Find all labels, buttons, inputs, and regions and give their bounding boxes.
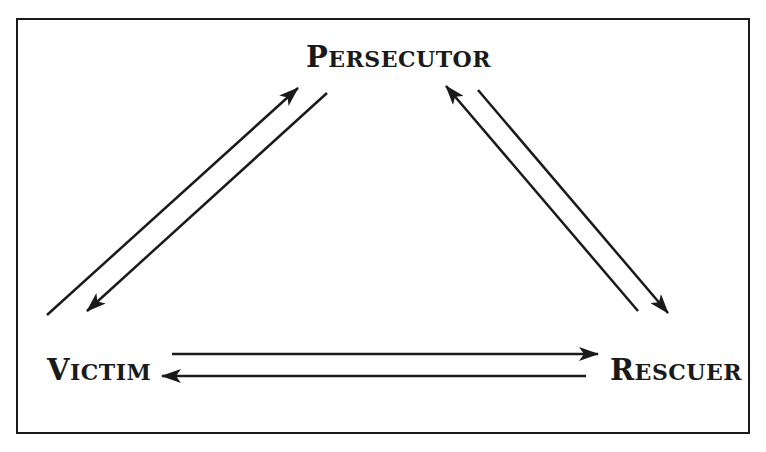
node-rescuer: RESCUER (610, 353, 742, 387)
arrow-rescuer-to-persecutor (446, 86, 638, 311)
node-rescuer-initial: R (610, 353, 635, 387)
node-rescuer-rest: ESCUER (635, 359, 742, 385)
arrow-victim-to-persecutor (47, 88, 298, 315)
node-persecutor: PERSECUTOR (306, 40, 491, 74)
arrow-persecutor-to-rescuer (478, 90, 668, 313)
arrow-persecutor-to-victim (87, 93, 327, 311)
node-victim: VICTIM (47, 353, 151, 387)
node-persecutor-rest: ERSECUTOR (328, 46, 491, 72)
node-victim-initial: V (47, 353, 70, 387)
node-persecutor-initial: P (306, 40, 328, 74)
node-victim-rest: ICTIM (70, 359, 151, 385)
